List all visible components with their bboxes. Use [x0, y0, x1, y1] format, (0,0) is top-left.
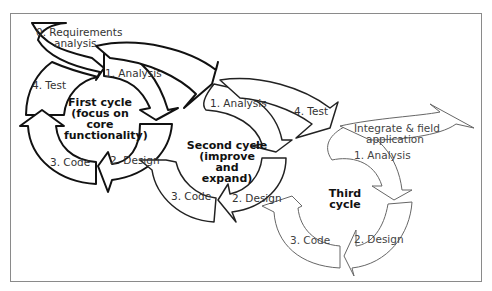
first-cycle-center: First cycle (focus on core functionality… [64, 97, 136, 141]
first-analysis-label: 1. Analysis [105, 68, 162, 79]
third-cycle-center: Third cycle [320, 188, 370, 210]
second-analysis-label: 1. Analysis [210, 98, 267, 109]
second-cycle-center: Second cycle (improve and expand) [186, 140, 268, 184]
third-code-label: 3. Code [290, 235, 330, 246]
second-test-label: 4. Test [294, 106, 328, 117]
third-cycle-sub1: cycle [320, 199, 370, 210]
first-test-label: 4. Test [32, 80, 66, 91]
third-analysis-label: 1. Analysis [354, 150, 411, 161]
third-design-label: 2. Design [354, 234, 404, 245]
first-code-label: 3. Code [50, 157, 90, 168]
second-code-label: 3. Code [171, 191, 211, 202]
second-cycle-sub3: expand) [186, 173, 268, 184]
second-design-label: 2. Design [232, 193, 282, 204]
requirements-label-line2: analysis [54, 38, 97, 49]
first-cycle-sub3: functionality) [64, 130, 136, 141]
end-label-line2: application [366, 134, 424, 145]
first-design-label: 2. Design [110, 155, 160, 166]
